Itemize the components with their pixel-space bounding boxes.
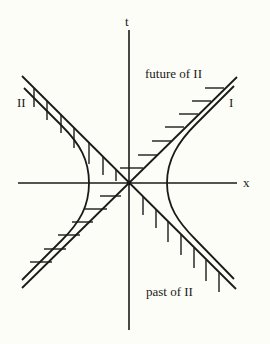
future-region-label: future of II [145, 67, 202, 80]
observer-II-label: II [17, 96, 26, 109]
observer-I-label: I [229, 96, 233, 109]
t-axis-label: t [125, 15, 129, 28]
hatch-lower-right [143, 197, 219, 292]
spacetime-diagram: t x II I future of II past of II [0, 0, 270, 344]
past-region-label: past of II [146, 285, 193, 298]
origin-point [127, 181, 131, 185]
hatch-lower-left [30, 196, 121, 262]
hyperbola-left-II [22, 88, 89, 280]
hatch-upper-left [34, 88, 116, 181]
x-axis-label: x [243, 176, 250, 189]
diagram-canvas [0, 0, 270, 344]
